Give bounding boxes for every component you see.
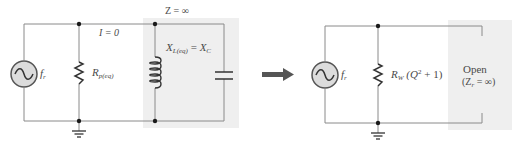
source-freq-sub: r: [43, 73, 46, 81]
reactance-label: XL(eq) = XC: [166, 42, 211, 55]
rw-expr-open: (Q: [406, 68, 418, 80]
resistor-label-main: R: [92, 66, 99, 78]
reactance-xc-sub: C: [206, 47, 211, 55]
current-label: I = 0: [99, 28, 119, 38]
resistor-label: Rp(eq): [92, 67, 114, 80]
resistor-label-right: RW (Q2 + 1): [391, 69, 442, 82]
rw-expr-close: + 1): [421, 68, 442, 80]
open-label-line1: Open: [463, 64, 487, 75]
circuit-diagram: Z = ∞ I = 0 fr Rp(eq) XL(eq) = XC fr RW …: [0, 0, 518, 157]
resistor-icon: [75, 62, 83, 84]
reactance-xl: X: [166, 41, 173, 53]
ac-source-icon: [11, 61, 37, 87]
open-z-close: = ∞): [474, 76, 495, 87]
source-freq-sub-right: r: [344, 74, 347, 82]
ac-source-icon: [312, 62, 338, 88]
source-freq-label: fr: [40, 68, 46, 81]
ground-icon: [72, 131, 86, 137]
open-shade: [448, 20, 512, 130]
source-freq-label-right: fr: [341, 69, 347, 82]
open-label-line2: (Zr = ∞): [462, 77, 495, 89]
ground-icon: [371, 133, 385, 139]
rw-main: R: [391, 68, 398, 80]
resistor-icon: [374, 64, 382, 86]
reactance-eq: =: [188, 41, 200, 53]
tank-shade: [143, 18, 239, 128]
impedance-label: Z = ∞: [165, 6, 189, 16]
right-arrow-icon: [262, 68, 294, 81]
reactance-xl-sub: L(eq): [173, 47, 188, 55]
resistor-label-sub: p(eq): [99, 72, 114, 80]
rw-sub: W: [398, 74, 404, 82]
